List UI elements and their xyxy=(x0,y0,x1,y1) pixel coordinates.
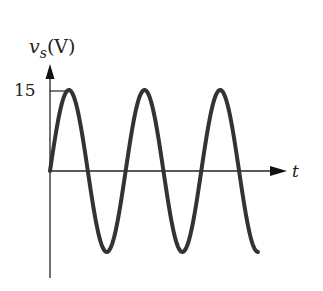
x-axis-label: t xyxy=(292,161,299,181)
sinusoid-diagram: 15 vs(V) t xyxy=(0,0,323,291)
x-axis-arrow-icon xyxy=(270,166,287,176)
y-axis-arrow-icon xyxy=(46,64,55,79)
y-axis-label: vs(V) xyxy=(29,35,75,61)
peak-value-label: 15 xyxy=(14,80,36,100)
